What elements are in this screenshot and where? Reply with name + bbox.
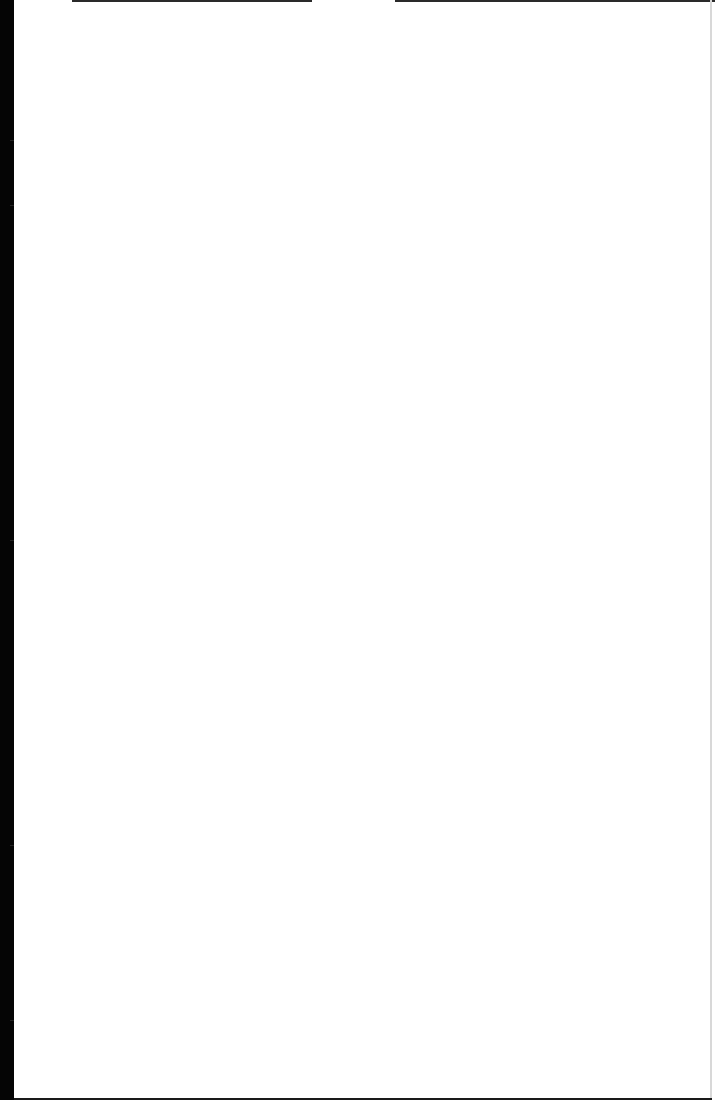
scan-right-edge (710, 0, 712, 1100)
scan-left-border (0, 0, 14, 1100)
blank-page (14, 2, 710, 1098)
